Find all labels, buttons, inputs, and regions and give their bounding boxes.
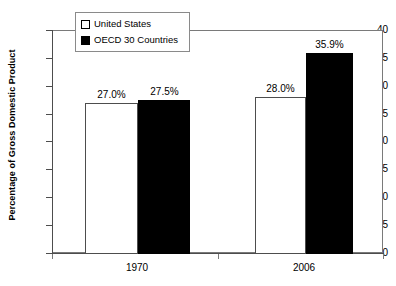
y-axis-line — [52, 30, 53, 254]
bar-value-2006-united-states: 28.0% — [252, 83, 309, 94]
legend: United States OECD 30 Countries — [75, 12, 190, 52]
bar-chart: Percentage of Gross Domestic Product 40 … — [0, 0, 396, 286]
legend-label: United States — [94, 19, 151, 29]
x-tick-label-1970: 1970 — [107, 262, 167, 273]
x-axis-tick — [383, 254, 384, 259]
x-axis-tick — [52, 254, 53, 259]
legend-item-united-states[interactable]: United States — [81, 16, 185, 32]
legend-item-oecd-30-countries[interactable]: OECD 30 Countries — [81, 32, 185, 48]
y-axis-title: Percentage of Gross Domestic Product — [7, 20, 17, 250]
x-axis-tick — [218, 254, 219, 259]
legend-swatch-icon — [81, 20, 90, 29]
x-tick-label-2006: 2006 — [274, 262, 334, 273]
bar-1970-united-states[interactable] — [85, 103, 138, 254]
bar-value-1970-oecd-30-countries: 27.5% — [136, 86, 193, 97]
bar-2006-united-states[interactable] — [255, 97, 306, 254]
bar-value-1970-united-states: 27.0% — [83, 89, 140, 100]
bar-1970-oecd-30-countries[interactable] — [138, 100, 190, 254]
bar-2006-oecd-30-countries[interactable] — [306, 53, 353, 254]
bar-value-2006-oecd-30-countries: 35.9% — [301, 39, 358, 50]
legend-swatch-icon — [81, 36, 90, 45]
legend-label: OECD 30 Countries — [94, 35, 178, 45]
